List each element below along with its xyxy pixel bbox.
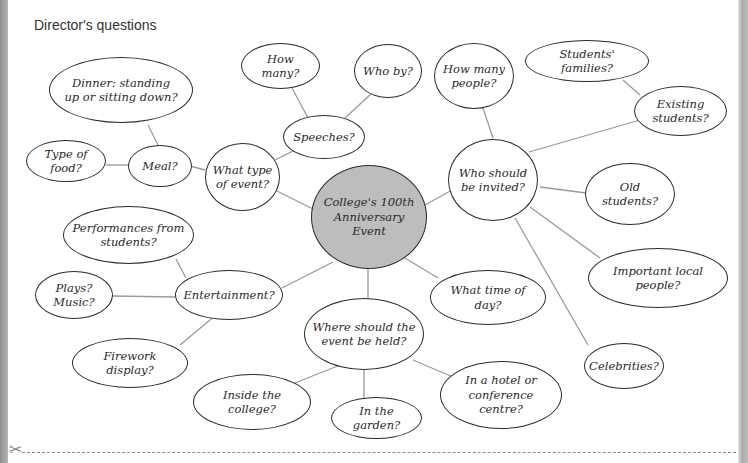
node-what-time-of-day: What time of day? (430, 270, 546, 325)
node-firework-display: Firework display? (72, 338, 188, 388)
node-important-local-people: Important local people? (588, 248, 728, 308)
node-celebrities: Celebrities? (584, 343, 664, 389)
node-what-type-of-event: What type of event? (205, 143, 280, 211)
node-in-the-garden: In the garden? (331, 397, 422, 439)
node-type-of-food: Type of food? (26, 140, 106, 182)
node-how-many: How many? (241, 43, 320, 89)
node-entertainment: Entertainment? (175, 270, 283, 320)
scissors-icon: ✂ (9, 442, 22, 458)
cut-line (22, 452, 736, 453)
node-existing-students: Existing students? (634, 86, 727, 136)
node-how-many-people: How many people? (434, 43, 514, 109)
node-where-should-event-be-held: Where should the event be held? (304, 298, 424, 370)
node-who-by: Who by? (354, 44, 422, 98)
center-node-anniversary-event: College's 100th Anniversary Event (311, 165, 427, 269)
node-who-should-be-invited: Who should be invited? (448, 139, 538, 221)
node-inside-the-college: Inside the college? (193, 374, 311, 430)
node-hotel-or-conference-centre: In a hotel or conference centre? (440, 361, 562, 429)
node-performances-from-students: Performances from students? (63, 206, 194, 264)
node-meal: Meal? (128, 145, 192, 187)
node-dinner: Dinner: standing up or sitting down? (49, 57, 193, 123)
node-plays-music: Plays? Music? (35, 271, 113, 319)
node-old-students: Old students? (585, 163, 675, 225)
node-students-families: Students' families? (525, 40, 649, 82)
node-speeches: Speeches? (283, 115, 365, 159)
